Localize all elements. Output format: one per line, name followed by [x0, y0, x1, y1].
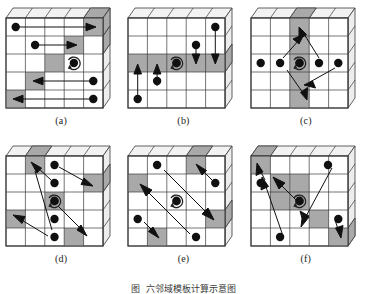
panel-c-label: (c): [300, 115, 312, 127]
cube-d: [6, 146, 110, 246]
cube-grid-a: [2, 0, 120, 114]
panel-grid: (a): [0, 0, 367, 276]
cube-a: [6, 8, 110, 108]
figure-caption-number: 图: [131, 284, 140, 294]
cube-grid-b: [124, 0, 242, 114]
panel-b-diagram: [124, 0, 242, 114]
cube-f: [251, 146, 355, 246]
panel-c: (c): [245, 0, 367, 138]
cube-grid-d: [2, 138, 120, 252]
panel-a-diagram: [2, 0, 120, 114]
cube-grid-e: [124, 138, 242, 252]
panel-f-label: (f): [301, 253, 312, 265]
cube-e: [128, 146, 232, 246]
panel-d-label: (d): [55, 253, 67, 265]
panel-f-diagram: [247, 138, 365, 252]
panel-e-label: (e): [178, 253, 190, 265]
panel-d: (d): [0, 138, 122, 276]
panel-a: (a): [0, 0, 122, 138]
panel-b-label: (b): [177, 115, 189, 127]
panel-b: (b): [122, 0, 244, 138]
cube-grid-f: [247, 138, 365, 252]
cube-grid-c: [247, 0, 365, 114]
panel-e: (e): [122, 138, 244, 276]
panel-d-diagram: [2, 138, 120, 252]
panel-f: (f): [245, 138, 367, 276]
cube-b: [128, 8, 232, 108]
panel-a-label: (a): [55, 115, 67, 127]
figure-caption-text: 六邻域模板计算示意图: [146, 284, 236, 294]
panel-c-diagram: [247, 0, 365, 114]
figure-caption: 图六邻域模板计算示意图: [0, 284, 367, 294]
panel-e-diagram: [124, 138, 242, 252]
cube-c: [251, 8, 355, 108]
figure-root: (a): [0, 0, 367, 294]
